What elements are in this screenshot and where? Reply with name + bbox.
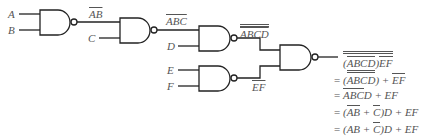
wire-label-abcd-bar: ABCD	[240, 24, 269, 40]
input-label-a: A	[8, 9, 15, 20]
input-label-e: E	[167, 65, 174, 76]
input-label-f: F	[167, 81, 174, 92]
equation-line-2: = (ABCD) + EF	[334, 70, 405, 86]
input-label-c: C	[88, 33, 95, 44]
nand-gate-1	[19, 10, 120, 35]
wire-label-ef-bar: EF	[252, 82, 265, 93]
equation-line-1: (ABCD)EF	[343, 51, 393, 69]
wire-label-abc-bar: ABC	[166, 16, 187, 27]
equation-line-3: = ABCD + EF	[334, 88, 398, 101]
equation-line-5: = (AB + C)D + EF	[334, 122, 418, 135]
input-label-b: B	[8, 25, 15, 36]
equation-line-4: = (AB + C)D + EF	[334, 105, 418, 118]
nand-gate-final	[280, 45, 338, 70]
input-label-d: D	[167, 41, 175, 52]
wire-label-ab-bar: AB	[89, 9, 102, 20]
